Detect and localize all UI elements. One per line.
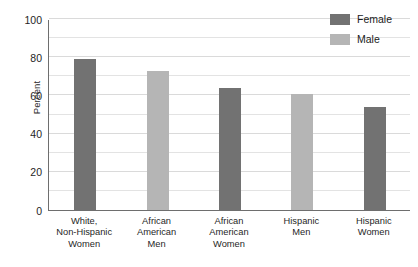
bar bbox=[74, 59, 96, 210]
x-axis-tick-label: HispanicMen bbox=[265, 216, 337, 239]
y-axis-title: Percent bbox=[31, 58, 42, 138]
x-axis-label-line: Non-Hispanic bbox=[48, 227, 120, 238]
bar-chart-figure: 020406080100 Percent White,Non-HispanicW… bbox=[0, 0, 418, 267]
x-axis-label-line: Women bbox=[48, 239, 120, 250]
x-axis-label-line: African bbox=[120, 216, 192, 227]
legend-item: Male bbox=[330, 34, 414, 45]
y-axis-tick-label: 100 bbox=[8, 15, 42, 26]
x-axis-tick-label: AfricanAmericanMen bbox=[120, 216, 192, 250]
legend-swatch bbox=[330, 14, 350, 25]
x-axis-label-line: Men bbox=[265, 227, 337, 238]
legend-item: Female bbox=[330, 14, 414, 25]
y-axis-tick-label: 0 bbox=[8, 206, 42, 217]
bar bbox=[291, 94, 313, 211]
chart-legend: FemaleMale bbox=[330, 14, 414, 54]
x-axis-label-line: Women bbox=[193, 239, 265, 250]
x-axis-label-line: Women bbox=[338, 227, 410, 238]
x-axis-label-line: Hispanic bbox=[338, 216, 410, 227]
x-axis-tick-label: AfricanAmericanWomen bbox=[193, 216, 265, 250]
x-axis-label-line: African bbox=[193, 216, 265, 227]
x-axis-tick-label: White,Non-HispanicWomen bbox=[48, 216, 120, 250]
y-axis-tick-label: 20 bbox=[8, 167, 42, 178]
x-axis-label-line: White, bbox=[48, 216, 120, 227]
gridline bbox=[49, 56, 410, 57]
legend-swatch bbox=[330, 34, 350, 45]
gridline bbox=[49, 75, 410, 76]
x-axis-label-line: Hispanic bbox=[265, 216, 337, 227]
legend-label: Male bbox=[357, 34, 380, 45]
bar bbox=[364, 107, 386, 210]
x-axis-tick-label: HispanicWomen bbox=[338, 216, 410, 239]
bar bbox=[219, 88, 241, 210]
x-axis-label-line: American bbox=[193, 227, 265, 238]
x-axis-label-line: Men bbox=[120, 239, 192, 250]
x-axis-label-line: American bbox=[120, 227, 192, 238]
bar bbox=[147, 71, 169, 210]
legend-label: Female bbox=[357, 14, 392, 25]
